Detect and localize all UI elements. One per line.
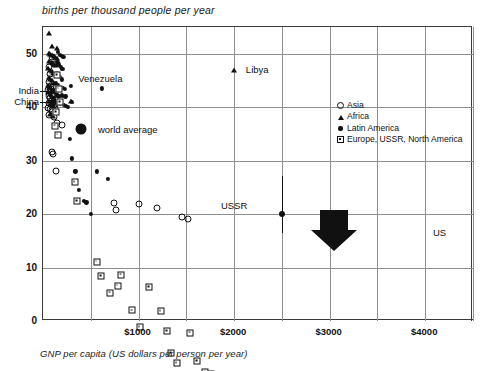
pointer-line-india bbox=[40, 91, 54, 92]
gridline-horizontal bbox=[43, 268, 473, 269]
point-asia bbox=[45, 78, 52, 85]
point-africa bbox=[45, 65, 51, 70]
gridline-vertical bbox=[91, 27, 92, 321]
point-africa bbox=[47, 67, 53, 72]
point-latin-america bbox=[70, 100, 74, 104]
point-europe-ussr-north-america bbox=[118, 271, 125, 278]
point-africa bbox=[53, 63, 59, 68]
y-tick-label: 40 bbox=[3, 101, 37, 112]
legend-item: Latin America bbox=[335, 123, 463, 134]
arrow-stem-upper bbox=[282, 176, 283, 214]
point-latin-america bbox=[56, 73, 60, 77]
point-europe-ussr-north-america bbox=[55, 85, 62, 92]
point-africa bbox=[50, 70, 56, 75]
point-latin-america bbox=[58, 75, 62, 79]
annotation-world-average: world average bbox=[98, 124, 158, 135]
gridline-vertical bbox=[139, 27, 140, 321]
legend-label: Asia bbox=[346, 100, 364, 111]
gridline-vertical bbox=[473, 27, 474, 321]
point-europe-ussr-north-america bbox=[53, 109, 60, 116]
y-tick-label: 20 bbox=[3, 208, 37, 219]
gridline-horizontal bbox=[43, 214, 473, 215]
plot-area: IndiaChinaworld averageVenezuelaLibyaUSS… bbox=[42, 26, 472, 320]
point-asia bbox=[50, 151, 57, 158]
legend-marker-filled-circle-icon bbox=[335, 123, 346, 134]
legend-marker-filled-triangle-icon bbox=[335, 111, 346, 122]
gridline-vertical bbox=[282, 27, 283, 321]
point-africa bbox=[47, 111, 53, 116]
annotation-libya: Libya bbox=[246, 64, 269, 75]
legend-marker-open-circle-icon bbox=[335, 100, 346, 111]
point-asia bbox=[110, 200, 117, 207]
annotation-india: India bbox=[3, 85, 39, 96]
point-latin-america bbox=[57, 85, 61, 89]
point-latin-america bbox=[56, 94, 60, 98]
point-latin-america bbox=[60, 93, 64, 97]
point-africa bbox=[50, 61, 56, 66]
point-asia bbox=[153, 204, 160, 211]
point-asia bbox=[45, 64, 52, 71]
gridline-vertical bbox=[186, 27, 187, 321]
point-africa bbox=[49, 68, 55, 73]
point-asia bbox=[59, 122, 66, 129]
point-africa bbox=[46, 59, 52, 64]
gridline-vertical bbox=[330, 27, 331, 321]
point-latin-america bbox=[69, 84, 73, 88]
point-latin-america bbox=[73, 169, 77, 173]
point-europe-ussr-north-america bbox=[57, 98, 64, 105]
point-africa bbox=[54, 46, 60, 51]
chart-legend: AsiaAfricaLatin AmericaEurope, USSR, Nor… bbox=[335, 100, 463, 146]
point-latin-america bbox=[61, 55, 65, 59]
arrow-stem-lower bbox=[282, 214, 283, 233]
gridline-vertical bbox=[377, 27, 378, 321]
legend-label: Africa bbox=[346, 111, 369, 122]
point-latin-america bbox=[54, 80, 58, 84]
point-latin-america bbox=[77, 187, 81, 191]
gridline-vertical bbox=[425, 27, 426, 321]
point-latin-america bbox=[60, 77, 64, 81]
y-tick-label: 50 bbox=[3, 47, 37, 58]
point-latin-america bbox=[55, 60, 59, 64]
point-africa bbox=[46, 31, 52, 36]
point-latin-america bbox=[55, 83, 59, 87]
point-africa bbox=[52, 54, 58, 59]
x-axis-title: GNP per capita (US dollars per person pe… bbox=[40, 348, 248, 359]
point-asia bbox=[50, 61, 57, 68]
point-asia bbox=[47, 71, 54, 78]
point-europe-ussr-north-america bbox=[98, 273, 105, 280]
point-africa bbox=[49, 78, 55, 83]
point-latin-america bbox=[57, 62, 61, 66]
point-asia bbox=[53, 168, 60, 175]
legend-item: Asia bbox=[335, 100, 463, 111]
y-tick-label: 0 bbox=[3, 315, 37, 326]
point-africa bbox=[46, 75, 52, 80]
point-europe-ussr-north-america bbox=[106, 289, 113, 296]
annotation-venezuela: Venezuela bbox=[78, 73, 122, 84]
point-africa bbox=[45, 82, 51, 87]
point-europe-ussr-north-america bbox=[54, 72, 61, 79]
legend-item: Europe, USSR, North America bbox=[335, 134, 463, 145]
gridline-horizontal bbox=[43, 161, 473, 162]
x-tick-label: $2000 bbox=[220, 326, 246, 337]
point-latin-america bbox=[63, 87, 67, 91]
gridline-horizontal bbox=[43, 54, 473, 55]
point-world-average bbox=[76, 123, 87, 134]
y-axis-title: births per thousand people per year bbox=[42, 4, 215, 16]
point-europe-ussr-north-america bbox=[52, 122, 59, 129]
point-europe-ussr-north-america bbox=[74, 198, 81, 205]
point-africa bbox=[54, 56, 60, 61]
point-latin-america bbox=[55, 92, 59, 96]
down-arrow-icon bbox=[310, 210, 358, 252]
point-europe-ussr-north-america bbox=[54, 131, 61, 138]
point-africa bbox=[52, 72, 58, 77]
point-latin-america bbox=[54, 71, 58, 75]
point-europe-ussr-north-america bbox=[128, 307, 135, 314]
x-tick-label: $3000 bbox=[315, 326, 341, 337]
point-europe-ussr-north-america bbox=[164, 327, 171, 334]
x-tick-label: $1000 bbox=[124, 326, 150, 337]
point-latin-america bbox=[100, 86, 104, 90]
y-tick-label: 10 bbox=[3, 261, 37, 272]
point-latin-america bbox=[94, 169, 98, 173]
legend-label: Latin America bbox=[346, 123, 399, 134]
point-europe-ussr-north-america bbox=[114, 282, 121, 289]
